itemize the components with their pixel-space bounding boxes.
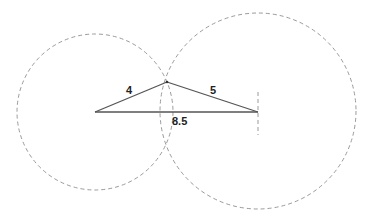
triangle-construction-diagram: 4 5 8.5 bbox=[0, 0, 368, 222]
side-label-4: 4 bbox=[126, 84, 133, 96]
side-label-5: 5 bbox=[210, 84, 216, 96]
side-label-8-5: 8.5 bbox=[172, 115, 187, 127]
apex-point bbox=[166, 81, 169, 84]
compass-circle-right bbox=[160, 13, 356, 209]
